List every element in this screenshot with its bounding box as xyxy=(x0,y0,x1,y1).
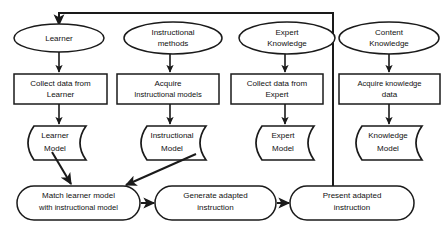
model-instructional-label-line1: Instructional xyxy=(150,131,193,140)
model-node-expert-model[interactable]: Expert Model xyxy=(256,126,314,160)
model-learner-label-line1: Learner xyxy=(41,131,69,140)
process-collect-learner-label-line1: Collect data from xyxy=(30,79,91,88)
diagram-canvas: Learner Instructional methods Expert Kno… xyxy=(0,0,447,234)
process-collect-learner-label-line2: Learner xyxy=(47,90,75,99)
source-expert-knowledge-label-line2: Knowledge xyxy=(267,39,307,48)
process-acquire-knowledge-label-line1: Acquire knowledge xyxy=(357,79,421,88)
source-instructional-methods-label-line2: methods xyxy=(158,39,189,48)
pipeline-generate-label-line2: instruction xyxy=(197,203,233,212)
pipeline-match-label-line1: Match learner model xyxy=(42,191,115,200)
pipeline-present-label-line2: instruction xyxy=(334,203,370,212)
source-content-knowledge-label-line1: Content xyxy=(375,28,404,37)
pipeline-node-present-adapted-instruction[interactable]: Present adapted instruction xyxy=(290,186,414,220)
source-instructional-methods-label-line1: Instructional xyxy=(151,28,194,37)
model-knowledge-label-line1: Knowledge xyxy=(368,131,408,140)
process-node-collect-data-from-learner[interactable]: Collect data from Learner xyxy=(14,74,107,104)
process-acquire-instructional-label-line1: Acquire xyxy=(154,79,182,88)
flowchart-svg: Learner Instructional methods Expert Kno… xyxy=(0,0,447,234)
model-node-knowledge-model[interactable]: Knowledge Model xyxy=(356,126,422,160)
source-learner-label: Learner xyxy=(45,34,73,43)
model-knowledge-label-line2: Model xyxy=(377,144,399,153)
pipeline-node-match-learner-model[interactable]: Match learner model with instructional m… xyxy=(17,186,140,220)
process-collect-expert-label-line1: Collect data from xyxy=(247,79,308,88)
source-expert-knowledge-label-line1: Expert xyxy=(275,28,299,37)
pipeline-node-generate-adapted-instruction[interactable]: Generate adapted instruction xyxy=(155,186,276,220)
source-content-knowledge-label-line2: Knowledge xyxy=(369,39,409,48)
process-node-acquire-instructional-models[interactable]: Acquire Instructional models xyxy=(117,74,219,104)
process-acquire-instructional-label-line2: Instructional models xyxy=(134,90,202,99)
pipeline-match-label-line2: with instructional model xyxy=(38,203,118,212)
source-node-content-knowledge[interactable]: Content Knowledge xyxy=(339,22,439,54)
pipeline-generate-label-line1: Generate adapted xyxy=(183,191,248,200)
model-instructional-label-line2: Model xyxy=(161,144,183,153)
model-node-learner-model[interactable]: Learner Model xyxy=(28,126,86,160)
source-node-instructional-methods[interactable]: Instructional methods xyxy=(124,22,222,54)
process-collect-expert-label-line2: Expert xyxy=(265,90,289,99)
source-node-expert-knowledge[interactable]: Expert Knowledge xyxy=(239,22,335,54)
model-expert-label-line1: Expert xyxy=(271,131,295,140)
process-node-collect-data-from-expert[interactable]: Collect data from Expert xyxy=(231,74,323,104)
model-expert-label-line2: Model xyxy=(272,144,294,153)
process-node-acquire-knowledge-data[interactable]: Acquire knowledge data xyxy=(339,74,440,104)
pipeline-present-label-line1: Present adapted xyxy=(323,191,382,200)
source-node-learner[interactable]: Learner xyxy=(14,24,104,52)
model-learner-label-line2: Model xyxy=(44,144,66,153)
process-acquire-knowledge-label-line2: data xyxy=(382,90,398,99)
